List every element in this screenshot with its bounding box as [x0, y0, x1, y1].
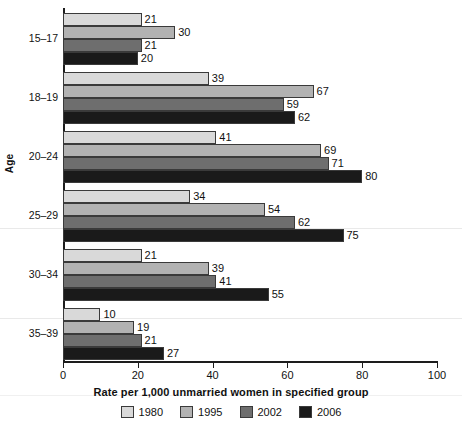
bar-row: 27 — [63, 347, 437, 360]
bar-value-label: 54 — [265, 202, 280, 216]
bar-row: 67 — [63, 85, 437, 98]
bar-row: 39 — [63, 72, 437, 85]
bar-row: 41 — [63, 275, 437, 288]
bar-row: 59 — [63, 98, 437, 111]
bar-row: 55 — [63, 288, 437, 301]
x-tick — [362, 363, 363, 368]
bar[interactable] — [63, 170, 362, 183]
bar[interactable] — [63, 131, 216, 144]
bar-value-label: 30 — [175, 25, 190, 39]
bar-group: 21394155 — [63, 249, 437, 301]
legend-item[interactable]: 2006 — [299, 406, 341, 418]
bar-value-label: 67 — [314, 84, 329, 98]
bar-group: 21302120 — [63, 13, 437, 65]
bar-row: 62 — [63, 216, 437, 229]
y-axis-title: Age — [4, 141, 15, 187]
x-tick-label: 100 — [417, 369, 457, 381]
bar[interactable] — [63, 85, 314, 98]
legend-item[interactable]: 1980 — [121, 406, 163, 418]
bar-value-label: 27 — [164, 346, 179, 360]
bar-row: 75 — [63, 229, 437, 242]
bar[interactable] — [63, 203, 265, 216]
bar-group: 41697180 — [63, 131, 437, 183]
bar-value-label: 41 — [216, 274, 231, 288]
category-label: 18–19 — [14, 91, 58, 103]
bar[interactable] — [63, 39, 142, 52]
bar-row: 34 — [63, 190, 437, 203]
legend-label: 1980 — [139, 406, 163, 418]
bar-value-label: 21 — [142, 333, 157, 347]
bar-row: 62 — [63, 111, 437, 124]
bar-row: 41 — [63, 131, 437, 144]
bar-value-label: 21 — [142, 248, 157, 262]
bar-row: 19 — [63, 321, 437, 334]
bar-value-label: 19 — [134, 320, 149, 334]
bar[interactable] — [63, 275, 216, 288]
x-tick — [287, 363, 288, 368]
legend-label: 2002 — [258, 406, 282, 418]
bar-row: 21 — [63, 249, 437, 262]
bar-value-label: 10 — [100, 307, 115, 321]
bar[interactable] — [63, 72, 209, 85]
bar[interactable] — [63, 157, 329, 170]
legend-swatch — [121, 406, 134, 418]
bar[interactable] — [63, 334, 142, 347]
bar[interactable] — [63, 98, 284, 111]
bar[interactable] — [63, 52, 138, 65]
bar-value-label: 41 — [216, 130, 231, 144]
bar-value-label: 34 — [190, 189, 205, 203]
bar-row: 20 — [63, 52, 437, 65]
bar[interactable] — [63, 26, 175, 39]
bar-value-label: 55 — [269, 287, 284, 301]
legend-item[interactable]: 1995 — [180, 406, 222, 418]
legend-label: 1995 — [198, 406, 222, 418]
bar-value-label: 62 — [295, 110, 310, 124]
bar-value-label: 21 — [142, 12, 157, 26]
x-tick-label: 0 — [43, 369, 83, 381]
bar[interactable] — [63, 262, 209, 275]
x-tick — [63, 363, 64, 368]
bar-row: 39 — [63, 262, 437, 275]
bar-row: 21 — [63, 13, 437, 26]
bar-row: 71 — [63, 157, 437, 170]
bar[interactable] — [63, 144, 321, 157]
bar[interactable] — [63, 321, 134, 334]
bar-group: 39675962 — [63, 72, 437, 124]
bar-group: 34546275 — [63, 190, 437, 242]
bar[interactable] — [63, 111, 295, 124]
bar-row: 54 — [63, 203, 437, 216]
x-tick — [437, 363, 438, 368]
x-tick-label: 20 — [118, 369, 158, 381]
bar[interactable] — [63, 288, 269, 301]
bar[interactable] — [63, 190, 190, 203]
legend-label: 2006 — [317, 406, 341, 418]
bar-row: 10 — [63, 308, 437, 321]
x-tick — [138, 363, 139, 368]
bar-value-label: 75 — [344, 228, 359, 242]
legend-item[interactable]: 2002 — [240, 406, 282, 418]
plot-area: 2130212039675962416971803454627521394155… — [63, 8, 437, 363]
x-tick-label: 60 — [267, 369, 307, 381]
bar-group: 10192127 — [63, 308, 437, 360]
bar-value-label: 39 — [209, 71, 224, 85]
bar-value-label: 59 — [284, 97, 299, 111]
bar-row: 30 — [63, 26, 437, 39]
bar[interactable] — [63, 229, 344, 242]
bar[interactable] — [63, 216, 295, 229]
bar[interactable] — [63, 249, 142, 262]
birth-rate-bar-chart: Age 15–1718–1920–2425–2930–3435–39 21302… — [0, 0, 462, 430]
legend-swatch — [299, 406, 312, 418]
category-label: 15–17 — [14, 32, 58, 44]
legend-swatch — [180, 406, 193, 418]
legend: 1980199520022006 — [0, 406, 462, 418]
category-label: 20–24 — [14, 150, 58, 162]
x-tick — [213, 363, 214, 368]
bar-row: 21 — [63, 334, 437, 347]
bar[interactable] — [63, 347, 164, 360]
legend-swatch — [240, 406, 253, 418]
bar-value-label: 80 — [362, 169, 377, 183]
bar[interactable] — [63, 13, 142, 26]
bar-value-label: 21 — [142, 38, 157, 52]
bar[interactable] — [63, 308, 100, 321]
x-tick-label: 80 — [342, 369, 382, 381]
